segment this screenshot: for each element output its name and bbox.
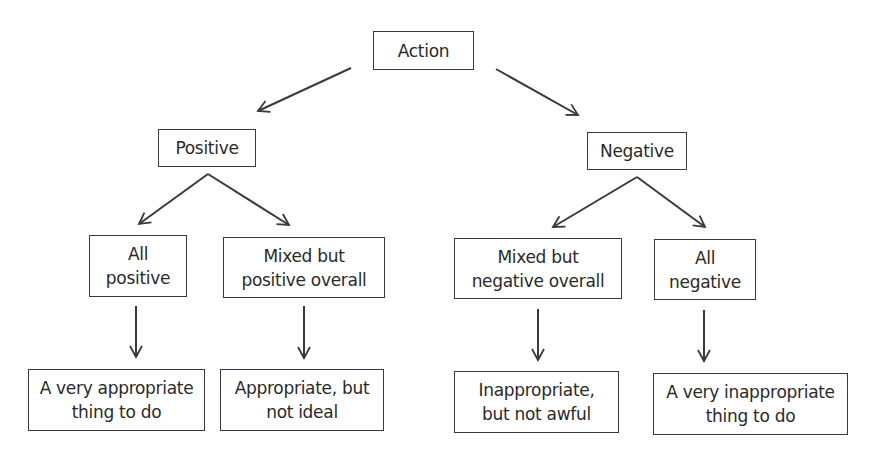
node-mixed-positive-line2: positive overall	[241, 268, 366, 292]
node-mixed-positive-line1: Mixed but	[263, 244, 344, 268]
node-all-negative-line1: All	[695, 246, 715, 270]
node-appropriate-line1: Appropriate, but	[235, 376, 370, 400]
node-very-inappropriate-line1: A very inappropriate	[666, 380, 835, 404]
node-inappropriate-line2: but not awful	[482, 402, 591, 426]
node-very-inappropriate-line2: thing to do	[706, 404, 796, 428]
node-all-positive-line1: All	[128, 242, 148, 266]
node-positive: Positive	[158, 129, 256, 167]
node-positive-label: Positive	[175, 136, 238, 160]
arrow-negative-to-all-negative	[637, 177, 705, 227]
node-negative-label: Negative	[600, 139, 674, 163]
node-mixed-negative-line1: Mixed but	[497, 245, 578, 269]
arrow-positive-to-all-positive	[139, 174, 208, 224]
node-action-label: Action	[398, 39, 449, 63]
node-appropriate-line2: not ideal	[266, 400, 338, 424]
node-mixed-positive: Mixed but positive overall	[223, 237, 385, 298]
node-appropriate: Appropriate, but not ideal	[220, 369, 384, 431]
node-all-negative: All negative	[654, 239, 756, 300]
arrow-negative-to-mixed-negative	[553, 177, 637, 227]
node-very-inappropriate: A very inappropriate thing to do	[653, 373, 848, 435]
node-all-negative-line2: negative	[669, 270, 741, 294]
node-all-positive-line2: positive	[106, 266, 170, 290]
arrow-root-to-negative	[496, 69, 578, 115]
node-very-appropriate-line1: A very appropriate	[40, 376, 194, 400]
node-action: Action	[373, 31, 474, 70]
node-negative: Negative	[587, 132, 687, 170]
node-very-appropriate: A very appropriate thing to do	[28, 369, 205, 431]
node-mixed-negative: Mixed but negative overall	[454, 238, 622, 299]
arrow-positive-to-mixed-positive	[208, 174, 289, 225]
node-all-positive: All positive	[89, 235, 187, 297]
node-inappropriate: Inappropriate, but not awful	[454, 371, 619, 433]
node-very-appropriate-line2: thing to do	[72, 400, 162, 424]
node-inappropriate-line1: Inappropriate,	[478, 378, 594, 402]
node-mixed-negative-line2: negative overall	[472, 269, 605, 293]
arrow-root-to-positive	[258, 68, 351, 111]
